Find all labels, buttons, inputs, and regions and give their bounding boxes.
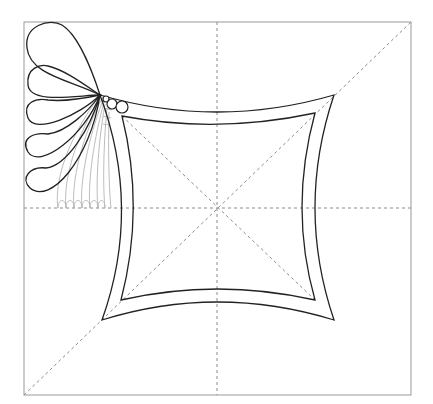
petal-top — [27, 22, 100, 95]
echo-line — [104, 108, 107, 208]
inner-curved-square — [121, 113, 315, 300]
petal-2 — [28, 66, 100, 98]
guide-lines — [24, 22, 411, 395]
circle-large — [116, 101, 128, 113]
diagram-canvas — [0, 0, 433, 404]
petal-3 — [27, 95, 100, 124]
quilt-diagram — [0, 0, 433, 404]
